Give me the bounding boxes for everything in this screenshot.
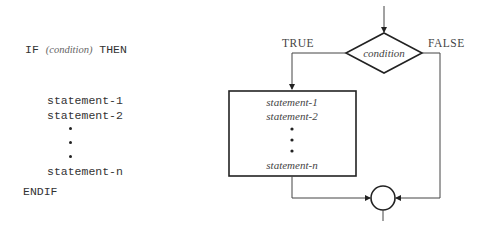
junction-connector <box>371 186 395 210</box>
box-statement-1: statement-1 <box>266 96 317 108</box>
false-branch-line <box>396 53 440 198</box>
process-exit-line <box>292 176 370 198</box>
false-label: FALSE <box>428 37 465 49</box>
true-branch-line <box>292 53 346 89</box>
box-statement-2: statement-2 <box>266 110 318 122</box>
ellipsis-dot <box>290 149 293 152</box>
box-statement-n: statement-n <box>266 159 318 171</box>
flowchart: condition TRUE FALSE statement-1 stateme… <box>0 0 493 232</box>
decision-label: condition <box>363 47 405 59</box>
ellipsis-dot <box>290 138 293 141</box>
true-label: TRUE <box>282 37 314 49</box>
ellipsis-dot <box>290 127 293 130</box>
